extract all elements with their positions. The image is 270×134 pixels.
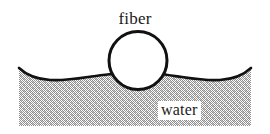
water-label: water (158, 101, 201, 120)
fiber-circle (109, 32, 167, 90)
fiber-label: fiber (0, 10, 270, 27)
fiber-water-diagram: fiber water (0, 0, 270, 134)
